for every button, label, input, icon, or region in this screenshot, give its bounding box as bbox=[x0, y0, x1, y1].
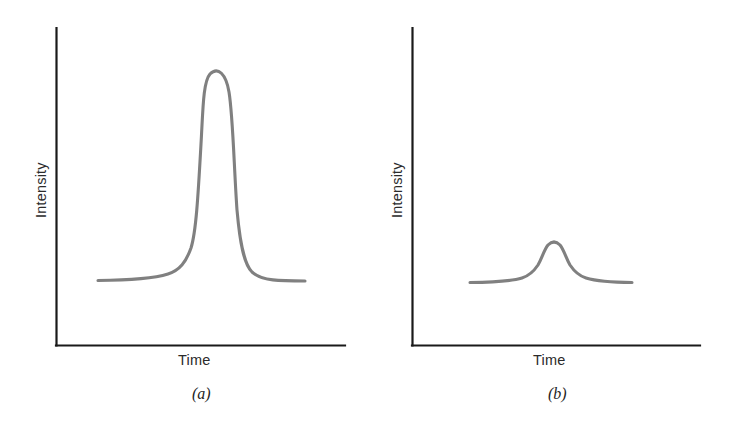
panel-caption-a: (a) bbox=[192, 385, 211, 403]
panel-b: Intensity Time (b) bbox=[366, 0, 733, 428]
panel-a: Intensity Time (a) bbox=[0, 0, 366, 428]
intensity-curve-b bbox=[470, 242, 632, 283]
intensity-curve-a bbox=[98, 71, 305, 281]
x-axis-label-b: Time bbox=[533, 352, 565, 368]
y-axis-label-a: Intensity bbox=[33, 162, 49, 218]
figure-root: Intensity Time (a) Intensity Time (b) bbox=[0, 0, 733, 428]
panel-caption-b: (b) bbox=[548, 385, 567, 403]
y-axis-label-b: Intensity bbox=[389, 162, 405, 218]
x-axis-label-a: Time bbox=[178, 352, 210, 368]
